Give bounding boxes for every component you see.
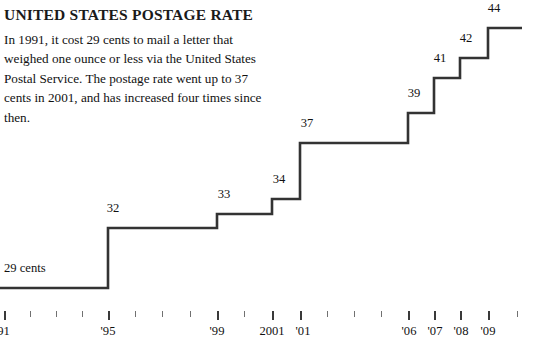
axis-label-2001-short: '01 — [296, 324, 311, 339]
step-value-2007: 41 — [434, 51, 447, 66]
axis-tick-major — [272, 311, 274, 320]
axis-label-2001-full: 2001 — [259, 324, 284, 339]
step-value-2009: 44 — [488, 1, 501, 16]
step-value-2001: 34 — [273, 172, 286, 187]
axis-tick-minor — [517, 311, 518, 317]
step-value-1999: 33 — [218, 187, 231, 202]
step-value-2006: 39 — [408, 86, 421, 101]
axis-label-2006: '06 — [402, 324, 417, 339]
axis-tick-minor — [190, 311, 191, 317]
step-line — [0, 0, 540, 316]
axis-tick-major — [460, 311, 462, 320]
postage-rate-chart: UNITED STATES POSTAGE RATE In 1991, it c… — [0, 0, 540, 360]
axis-tick-minor — [381, 311, 382, 317]
axis-tick-minor — [30, 311, 31, 317]
axis-tick-major — [300, 311, 302, 320]
x-axis: '91 '95 '99 2001 '01 '06 '07 '08 '09 — [0, 311, 540, 360]
axis-label-2008: '08 — [454, 324, 469, 339]
axis-tick-major — [4, 311, 6, 320]
plot-area: 29 cents 32 33 34 37 39 41 42 44 — [0, 0, 540, 316]
axis-label-1995: '95 — [101, 324, 116, 339]
axis-tick-major — [408, 311, 410, 320]
axis-tick-minor — [354, 311, 355, 317]
axis-label-1991: '91 — [0, 324, 10, 339]
step-value-2008: 42 — [460, 31, 473, 46]
axis-tick-minor — [135, 311, 136, 317]
axis-tick-minor — [327, 311, 328, 317]
axis-tick-major — [217, 311, 219, 320]
axis-tick-major — [434, 311, 436, 320]
axis-tick-major — [108, 311, 110, 320]
axis-tick-major — [488, 311, 490, 320]
step-value-2002: 37 — [301, 116, 314, 131]
axis-tick-minor — [82, 311, 83, 317]
axis-label-1999: '99 — [210, 324, 225, 339]
step-value-1995: 32 — [107, 201, 120, 216]
axis-tick-minor — [244, 311, 245, 317]
axis-tick-minor — [162, 311, 163, 317]
axis-label-2007: '07 — [428, 324, 443, 339]
axis-label-2009: '09 — [481, 324, 496, 339]
axis-tick-minor — [56, 311, 57, 317]
step-value-1991: 29 cents — [4, 261, 46, 276]
